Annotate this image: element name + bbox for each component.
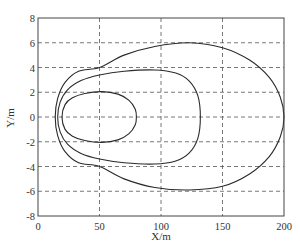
y-tick-label: 2 [30,87,35,98]
y-tick-labels: -8-6-4-202468 [26,13,36,222]
y-tick-label: 4 [30,63,36,74]
y-tick-label: -4 [26,162,35,173]
x-tick-label: 50 [94,221,105,232]
y-tick-label: 6 [30,38,35,49]
data-curves [55,43,284,190]
y-tick-label: -2 [26,137,35,148]
curve-outer-loop [55,43,284,190]
y-axis-label: Y/m [4,108,16,128]
x-tick-label: 150 [215,221,231,232]
x-axis-label: X/m [151,230,171,242]
y-tick-label: 0 [30,112,35,123]
trajectory-chart: 050100150200 -8-6-4-202468 X/m Y/m [0,0,300,251]
y-tick-label: 8 [30,13,35,24]
y-tick-label: -6 [26,186,35,197]
y-tick-label: -8 [26,211,35,222]
x-tick-label: 0 [35,221,40,232]
x-tick-label: 200 [276,221,292,232]
grid-lines [38,18,284,216]
